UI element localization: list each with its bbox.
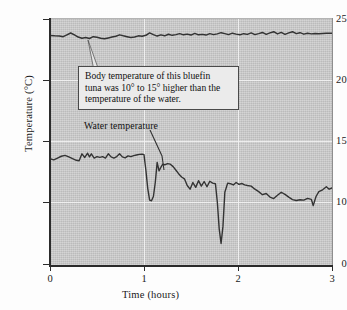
plot-border-top bbox=[50, 18, 333, 19]
water-temperature-line bbox=[50, 153, 332, 243]
y-tick-0 bbox=[43, 264, 50, 265]
callout-line-1: Body temperature of this bluefin bbox=[85, 70, 233, 82]
water-label-leader-line bbox=[148, 130, 172, 170]
x-tick-label-2: 2 bbox=[228, 273, 248, 284]
y-tick-label-25: 25 bbox=[306, 14, 347, 24]
x-tick-3 bbox=[332, 265, 333, 271]
y-tick-10 bbox=[43, 202, 50, 203]
x-tick-0 bbox=[50, 265, 51, 271]
x-tick-label-1: 1 bbox=[134, 273, 154, 284]
callout-line-3: temperature of the water. bbox=[85, 93, 233, 105]
x-tick-label-3: 3 bbox=[322, 273, 342, 284]
y-tick-15 bbox=[43, 141, 50, 142]
y-tick-20 bbox=[43, 80, 50, 81]
x-tick-1 bbox=[144, 265, 145, 271]
y-tick-label-0: 0 bbox=[306, 259, 347, 269]
x-axis-label: Time (hours) bbox=[122, 289, 262, 300]
figure-root: 25 20 15 10 0 0 1 2 3 Temperature (°C) T… bbox=[0, 0, 347, 310]
x-tick-2 bbox=[238, 265, 239, 271]
y-tick-25 bbox=[43, 19, 50, 20]
y-tick-label-15: 15 bbox=[306, 136, 347, 146]
y-tick-label-20: 20 bbox=[306, 75, 347, 85]
x-axis-line bbox=[49, 265, 333, 267]
callout-line-2: tuna was 10° to 15° higher than the bbox=[85, 82, 233, 94]
water-temperature-label: Water temperature bbox=[84, 120, 158, 131]
body-temperature-callout: Body temperature of this bluefin tuna wa… bbox=[78, 66, 239, 110]
body-temperature-line bbox=[50, 32, 332, 39]
y-tick-label-10: 10 bbox=[306, 197, 347, 207]
x-tick-label-0: 0 bbox=[40, 273, 60, 284]
y-axis-label: Temperature (°C) bbox=[23, 39, 34, 189]
callout-leader-line bbox=[84, 40, 102, 68]
